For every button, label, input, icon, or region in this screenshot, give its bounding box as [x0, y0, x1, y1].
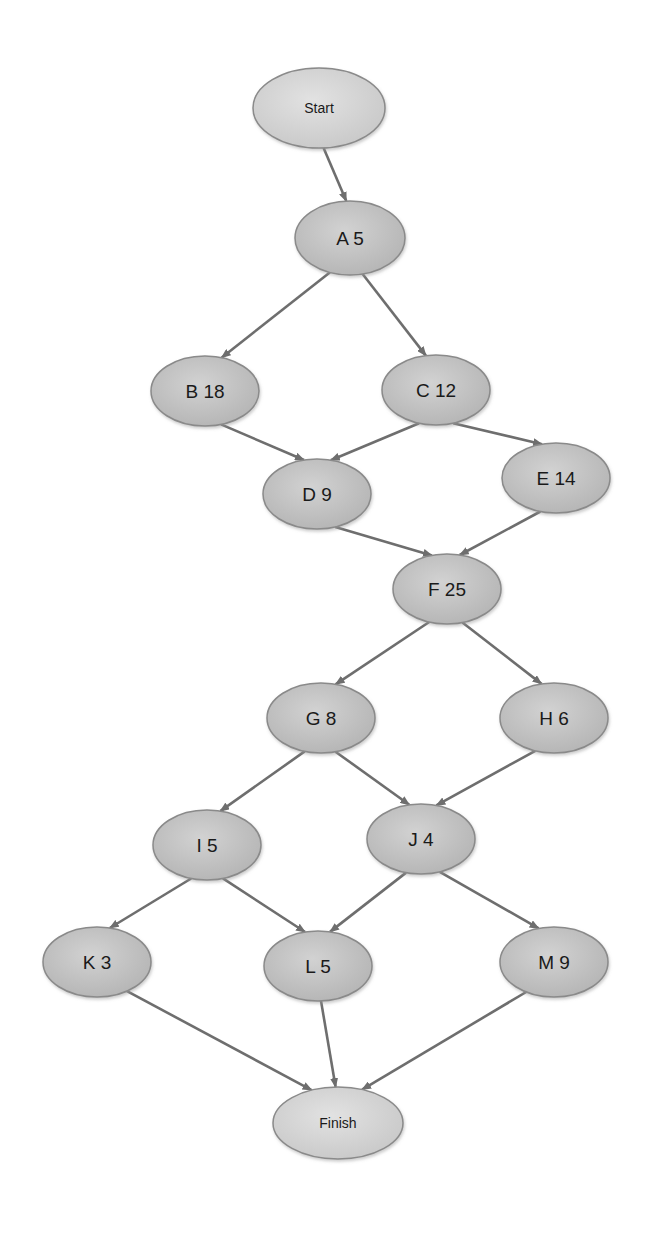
edge-f-to-h	[462, 623, 541, 684]
node-i: I 5	[153, 810, 261, 880]
node-b: B 18	[151, 356, 259, 426]
node-d: D 9	[263, 459, 371, 529]
node-label: L 5	[305, 956, 331, 977]
node-m: M 9	[500, 927, 608, 997]
edge-g-to-j	[336, 752, 410, 805]
node-label: F 25	[428, 579, 466, 600]
edge-b-to-d	[221, 424, 304, 460]
node-label: C 12	[416, 380, 456, 401]
edge-i-to-k	[110, 879, 191, 929]
edge-j-to-l	[330, 873, 406, 932]
edge-d-to-f	[335, 527, 432, 556]
node-label: E 14	[536, 468, 576, 489]
node-a: A 5	[295, 201, 405, 275]
edge-c-to-d	[331, 423, 419, 460]
edge-i-to-l	[223, 878, 305, 932]
edge-c-to-e	[453, 423, 542, 444]
node-f: F 25	[393, 554, 501, 624]
node-h: H 6	[500, 683, 608, 753]
network-diagram: StartA 5B 18C 12D 9E 14F 25G 8H 6I 5J 4K…	[0, 0, 646, 1235]
node-label: B 18	[185, 381, 224, 402]
node-c: C 12	[382, 355, 490, 425]
node-label: Finish	[319, 1115, 356, 1131]
edge-l-to-finish	[321, 1001, 336, 1087]
node-label: I 5	[196, 835, 217, 856]
edge-g-to-i	[220, 751, 304, 811]
node-label: K 3	[83, 952, 112, 973]
edge-h-to-j	[436, 751, 535, 806]
node-label: H 6	[539, 708, 569, 729]
edge-j-to-m	[440, 872, 539, 929]
edge-a-to-c	[363, 274, 426, 356]
edge-e-to-f	[460, 512, 541, 556]
node-g: G 8	[267, 683, 375, 753]
node-start: Start	[253, 68, 385, 148]
node-k: K 3	[43, 927, 151, 997]
node-label: G 8	[306, 708, 337, 729]
node-finish: Finish	[273, 1087, 403, 1159]
edge-k-to-finish	[127, 991, 312, 1090]
node-label: D 9	[302, 484, 332, 505]
node-label: J 4	[408, 829, 434, 850]
edge-start-to-a	[324, 148, 347, 201]
node-label: A 5	[336, 228, 363, 249]
node-j: J 4	[367, 804, 475, 874]
node-label: Start	[304, 100, 334, 116]
node-e: E 14	[502, 443, 610, 513]
edge-a-to-b	[222, 272, 330, 357]
node-label: M 9	[538, 952, 570, 973]
node-l: L 5	[264, 931, 372, 1001]
edge-m-to-finish	[362, 992, 526, 1090]
nodes-layer: StartA 5B 18C 12D 9E 14F 25G 8H 6I 5J 4K…	[43, 68, 610, 1159]
edge-f-to-g	[336, 622, 430, 684]
